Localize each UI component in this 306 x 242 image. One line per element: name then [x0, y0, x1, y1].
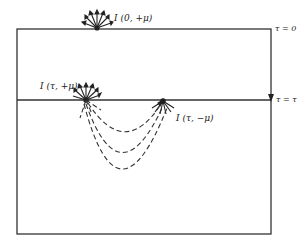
depth-arrow-icon: [268, 94, 274, 102]
layer-depth-label: τ = τ: [276, 96, 297, 104]
surface-burst-icon: [82, 10, 113, 30]
slab-boundary: [17, 29, 271, 234]
upward-intensity-label: I (τ, +μ): [40, 82, 78, 91]
top-intensity-label: I (0, +μ): [114, 14, 152, 23]
scattering-arc-middle: [86, 104, 163, 153]
surface-depth-label: τ = 0: [275, 25, 296, 33]
radiative-transfer-diagram: [0, 0, 306, 242]
downward-intensity-label: I (τ, −μ): [176, 114, 214, 123]
downward-burst-icon: [152, 99, 174, 114]
scattering-arcs: [80, 100, 167, 169]
scattering-arc-inner: [88, 103, 161, 132]
